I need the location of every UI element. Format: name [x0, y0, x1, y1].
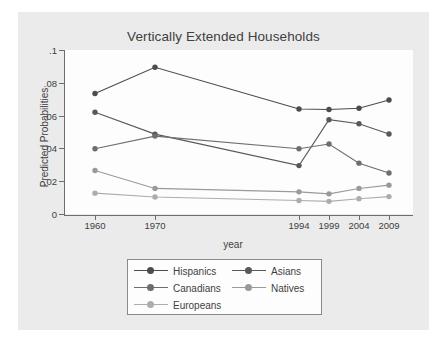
- legend-item-canadians[interactable]: Canadians: [134, 280, 221, 296]
- y-tick-mark: [59, 181, 64, 182]
- y-tick-mark: [59, 214, 64, 215]
- data-point: [152, 65, 157, 70]
- legend-key-icon: [134, 299, 168, 311]
- data-point: [386, 97, 391, 102]
- x-tick-mark: [359, 216, 360, 220]
- x-axis-label: year: [48, 239, 418, 250]
- y-tick-label: .1: [21, 45, 57, 56]
- data-point: [152, 194, 157, 199]
- legend-label: Canadians: [173, 283, 221, 294]
- data-point: [356, 160, 361, 165]
- data-point: [326, 141, 331, 146]
- data-point: [386, 170, 391, 175]
- y-tick-label: .04: [21, 143, 57, 154]
- x-tick-mark: [329, 216, 330, 220]
- legend-label: Asians: [271, 266, 301, 277]
- y-tick-label: .06: [21, 110, 57, 121]
- data-point: [296, 163, 301, 168]
- y-tick-mark: [59, 116, 64, 117]
- data-point: [326, 107, 331, 112]
- plot-svg: [65, 50, 413, 214]
- data-point: [92, 91, 97, 96]
- series-line: [95, 171, 389, 194]
- plot-area: [65, 50, 413, 214]
- y-tick-label: 0: [21, 209, 57, 220]
- data-point: [326, 117, 331, 122]
- y-tick-mark: [59, 50, 64, 51]
- y-axis-ticks: 0.02.04.06.08.1: [18, 12, 57, 330]
- series-line: [95, 136, 389, 173]
- data-point: [296, 198, 301, 203]
- x-tick-mark: [299, 216, 300, 220]
- legend-item-natives[interactable]: Natives: [232, 280, 304, 296]
- chart-figure: Vertically Extended Households Predicted…: [18, 12, 429, 330]
- legend-key-icon: [134, 282, 168, 294]
- legend-key-icon: [232, 265, 266, 277]
- legend-key-icon: [134, 265, 168, 277]
- data-point: [92, 168, 97, 173]
- x-tick-label: 1960: [84, 220, 105, 231]
- data-point: [326, 199, 331, 204]
- data-point: [296, 146, 301, 151]
- series-natives: [92, 168, 391, 197]
- x-tick-label: 2009: [378, 220, 399, 231]
- legend-item-europeans[interactable]: Europeans: [134, 297, 221, 313]
- x-tick-mark: [95, 216, 96, 220]
- data-point: [326, 191, 331, 196]
- x-tick-mark: [389, 216, 390, 220]
- x-tick-mark: [155, 216, 156, 220]
- data-point: [296, 189, 301, 194]
- data-point: [386, 194, 391, 199]
- data-point: [296, 106, 301, 111]
- x-tick-label: 2004: [348, 220, 369, 231]
- data-point: [386, 131, 391, 136]
- data-point: [152, 133, 157, 138]
- data-point: [386, 182, 391, 187]
- data-point: [92, 146, 97, 151]
- y-tick-mark: [59, 148, 64, 149]
- data-point: [92, 190, 97, 195]
- series-hispanics: [92, 65, 391, 113]
- data-point: [356, 121, 361, 126]
- x-tick-label: 1999: [318, 220, 339, 231]
- data-point: [152, 186, 157, 191]
- legend-item-asians[interactable]: Asians: [232, 263, 301, 279]
- legend-label: Europeans: [173, 300, 221, 311]
- chart-title: Vertically Extended Households: [18, 29, 429, 44]
- series-canadians: [92, 133, 391, 175]
- data-point: [356, 106, 361, 111]
- x-axis-line: [64, 215, 413, 216]
- data-point: [356, 196, 361, 201]
- legend-label: Hispanics: [173, 266, 216, 277]
- x-tick-label: 1970: [144, 220, 165, 231]
- y-tick-label: .02: [21, 176, 57, 187]
- x-tick-label: 1994: [288, 220, 309, 231]
- legend-key-icon: [232, 282, 266, 294]
- legend-label: Natives: [271, 283, 304, 294]
- series-line: [95, 193, 389, 201]
- data-point: [92, 110, 97, 115]
- y-tick-mark: [59, 83, 64, 84]
- legend-item-hispanics[interactable]: Hispanics: [134, 263, 216, 279]
- data-point: [356, 186, 361, 191]
- series-europeans: [92, 190, 391, 204]
- chart-legend: HispanicsAsiansCanadiansNativesEuropeans: [127, 259, 322, 315]
- series-line: [95, 67, 389, 109]
- y-axis-line: [64, 50, 65, 215]
- series-asians: [92, 110, 391, 169]
- y-tick-label: .08: [21, 77, 57, 88]
